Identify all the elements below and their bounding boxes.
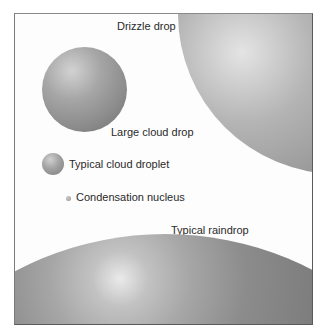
large-cloud-drop [42, 47, 127, 132]
typical-raindrop [14, 234, 313, 325]
typical-cloud-droplet [42, 153, 64, 175]
drizzle-drop-label: Drizzle drop [117, 20, 176, 32]
condensation-nucleus [66, 196, 71, 201]
condensation-nucleus-label: Condensation nucleus [76, 191, 185, 203]
large-cloud-drop-label: Large cloud drop [111, 126, 194, 138]
diagram-frame: Drizzle drop Large cloud drop Typical cl… [14, 13, 313, 325]
drizzle-drop [178, 13, 313, 174]
typical-cloud-droplet-label: Typical cloud droplet [69, 158, 169, 170]
